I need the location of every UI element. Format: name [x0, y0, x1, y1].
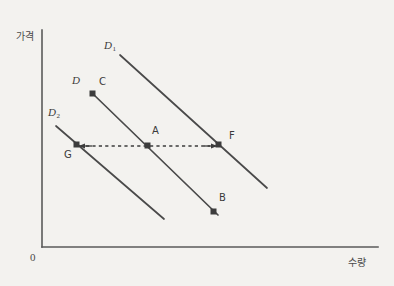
point-label-a: A — [152, 126, 159, 136]
curve-d1 — [120, 55, 267, 188]
curve-d2 — [56, 126, 164, 219]
point-marker-c — [90, 91, 96, 97]
point-label-b: B — [219, 193, 226, 203]
curve-label-d-text: D — [72, 74, 80, 86]
axes — [42, 30, 378, 247]
point-label-c: C — [99, 77, 106, 87]
curve-d — [92, 93, 218, 215]
figure-canvas — [0, 0, 394, 286]
point-label-f: F — [229, 131, 235, 141]
curve-label-d2: D2 — [48, 107, 59, 118]
point-marker-a — [145, 143, 151, 149]
point-label-g: G — [64, 150, 72, 160]
origin-label: 0 — [30, 252, 36, 263]
curve-label-d1-text: D — [104, 39, 112, 51]
demand-curves — [56, 55, 267, 219]
point-marker-g — [74, 142, 80, 148]
curve-label-d1-subscript: 1 — [112, 45, 116, 53]
y-axis-label: 가격 — [16, 32, 34, 42]
curve-label-d2-text: D — [48, 106, 56, 118]
curve-label-d1: D1 — [104, 40, 115, 51]
point-marker-b — [211, 209, 217, 215]
demand-shift-figure: 가격 수량 0 D1 D D2 C A B F G — [0, 0, 394, 286]
curve-label-d: D — [72, 75, 80, 86]
x-axis-label: 수량 — [348, 258, 366, 268]
point-marker-f — [216, 142, 222, 148]
curve-label-d2-subscript: 2 — [56, 112, 60, 120]
